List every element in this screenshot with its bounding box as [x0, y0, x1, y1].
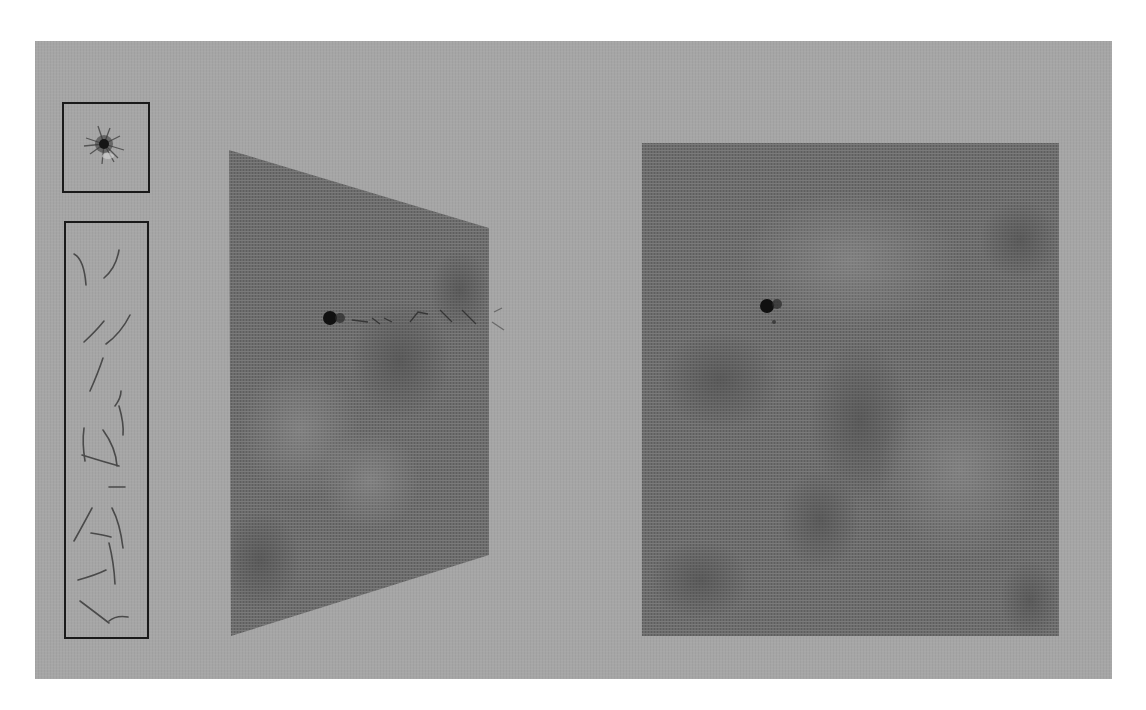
- perspective-view[interactable]: [0, 0, 1146, 710]
- front-view[interactable]: [642, 143, 1060, 640]
- track-overflow: [492, 308, 504, 330]
- perspective-plane: [220, 150, 504, 636]
